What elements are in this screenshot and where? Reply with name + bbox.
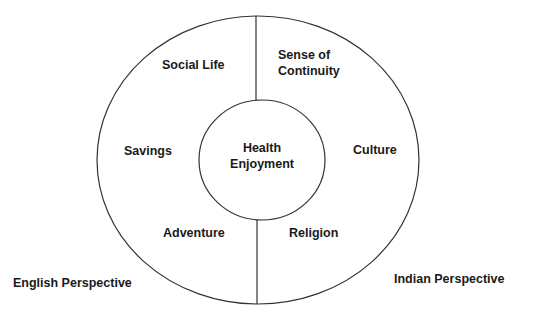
label-religion: Religion bbox=[289, 225, 338, 241]
label-adventure: Adventure bbox=[163, 225, 225, 241]
label-sense-of-continuity-line1: Sense of bbox=[278, 47, 330, 63]
caption-english-perspective: English Perspective bbox=[13, 275, 132, 291]
label-savings: Savings bbox=[124, 143, 172, 159]
label-center-enjoyment: Enjoyment bbox=[222, 156, 302, 172]
label-sense-of-continuity-line2: Continuity bbox=[278, 63, 340, 79]
label-center-health: Health bbox=[222, 140, 302, 156]
label-social-life: Social Life bbox=[162, 57, 225, 73]
caption-indian-perspective: Indian Perspective bbox=[394, 271, 504, 287]
label-culture: Culture bbox=[353, 142, 397, 158]
